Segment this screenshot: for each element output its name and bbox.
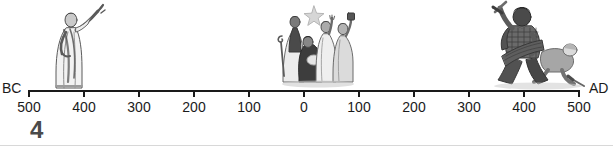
timeline-tick — [303, 90, 305, 97]
nativity-scene-illustration — [268, 2, 360, 92]
era-label-bc: BC — [2, 80, 21, 96]
timeline-tick — [578, 90, 580, 97]
page-number: 4 — [30, 116, 43, 144]
barbarian-warrior-illustration — [486, 0, 586, 92]
timeline-tick-label: 0 — [274, 99, 334, 115]
timeline-tick-label: 500 — [0, 99, 59, 115]
timeline-tick-label: 100 — [329, 99, 389, 115]
timeline-tick — [83, 90, 85, 97]
timeline-tick-label: 400 — [494, 99, 554, 115]
timeline-tick — [138, 90, 140, 97]
timeline-tick — [248, 90, 250, 97]
timeline-tick — [523, 90, 525, 97]
timeline-tick-label: 500 — [549, 99, 609, 115]
timeline-tick-label: 200 — [384, 99, 444, 115]
era-label-ad: AD — [589, 80, 608, 96]
timeline-tick-label: 200 — [164, 99, 224, 115]
bottom-divider — [0, 145, 613, 146]
timeline-figure: of the timeline. — [0, 0, 613, 147]
timeline-tick — [358, 90, 360, 97]
timeline-tick — [28, 90, 30, 97]
timeline-tick-label: 100 — [219, 99, 279, 115]
timeline-tick — [193, 90, 195, 97]
timeline-tick — [413, 90, 415, 97]
star-icon — [304, 6, 324, 25]
timeline-tick-label: 300 — [439, 99, 499, 115]
prophet-figure-illustration — [44, 2, 106, 92]
timeline-tick — [468, 90, 470, 97]
timeline-tick-label: 400 — [54, 99, 114, 115]
timeline-tick-label: 300 — [109, 99, 169, 115]
